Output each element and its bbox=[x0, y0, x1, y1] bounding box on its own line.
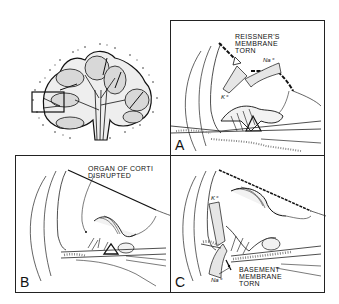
panel-a: REISSNER'S MEMBRANE TORN K⁺ Na⁺ A bbox=[170, 20, 325, 156]
panel-b: ORGAN OF CORTI DISRUPTED B bbox=[15, 155, 171, 293]
basement-membrane-label: BASEMENT MEMBRANE TORN bbox=[239, 266, 282, 287]
label-line: ORGAN OF CORTI bbox=[88, 165, 153, 172]
label-line: DISRUPTED bbox=[88, 172, 153, 179]
panel-letter-a: A bbox=[175, 137, 184, 153]
panel-c: BASEMENT MEMBRANE TORN K⁺ Na⁺ C bbox=[170, 155, 325, 293]
label-line: REISSNER'S bbox=[235, 33, 280, 40]
panel-letter-c: C bbox=[175, 274, 185, 290]
label-line: TORN bbox=[239, 280, 282, 287]
organ-of-corti-label: ORGAN OF CORTI DISRUPTED bbox=[88, 165, 153, 179]
cochlea-overview bbox=[15, 20, 165, 150]
label-line: MEMBRANE bbox=[239, 273, 282, 280]
potassium-ion-label: K⁺ bbox=[221, 93, 228, 100]
sodium-ion-label: Na⁺ bbox=[211, 276, 222, 283]
label-line: MEMBRANE bbox=[235, 40, 280, 47]
cochlea-drawing bbox=[15, 20, 165, 150]
reissners-membrane-label: REISSNER'S MEMBRANE TORN bbox=[235, 33, 280, 54]
sodium-ion-label: Na⁺ bbox=[263, 56, 274, 63]
panel-letter-b: B bbox=[20, 274, 29, 290]
label-line: BASEMENT bbox=[239, 266, 282, 273]
potassium-ion-label: K⁺ bbox=[211, 194, 218, 201]
label-line: TORN bbox=[235, 47, 280, 54]
